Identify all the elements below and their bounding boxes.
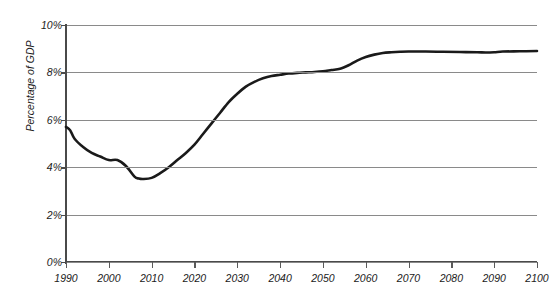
gridline-y-10%: [66, 25, 537, 26]
x-tick-mark: [323, 262, 324, 268]
x-tick-mark: [66, 262, 67, 268]
y-tick-mark: [61, 215, 67, 216]
x-tick-mark: [537, 262, 538, 268]
y-tick-label: 8%: [28, 67, 62, 78]
y-tick-mark: [61, 25, 67, 26]
x-tick-label: 2030: [214, 272, 260, 284]
x-tick-mark: [494, 262, 495, 268]
x-tick-mark: [409, 262, 410, 268]
x-tick-label: 2020: [171, 272, 217, 284]
y-tick-label: 2%: [28, 209, 62, 220]
y-tick-label: 10%: [28, 20, 62, 31]
chart-figure: Percentage of GDP 0%2%4%6%8%10% 19902000…: [0, 0, 557, 302]
x-tick-label: 1990: [43, 272, 89, 284]
y-tick-label-group: 0%2%4%6%8%10%: [18, 0, 62, 302]
x-tick-mark: [451, 262, 452, 268]
x-tick-label: 2060: [343, 272, 389, 284]
plot-area: [66, 25, 537, 262]
x-tick-label: 2050: [300, 272, 346, 284]
y-tick-label: 4%: [28, 162, 62, 173]
x-tick-label: 2040: [257, 272, 303, 284]
y-tick-mark: [61, 120, 67, 121]
gridline-y-6%: [66, 120, 537, 121]
x-tick-label: 2090: [471, 272, 517, 284]
chart-title-remnant: [0, 0, 557, 2]
data-series-line: [66, 25, 537, 262]
x-tick-mark: [237, 262, 238, 268]
gridline-y-4%: [66, 167, 537, 168]
y-tick-label: 0%: [28, 257, 62, 268]
x-tick-mark: [280, 262, 281, 268]
x-tick-label: 2010: [129, 272, 175, 284]
series-path-percentage-of-gdp: [66, 51, 537, 179]
y-tick-mark: [61, 72, 67, 73]
x-tick-mark: [109, 262, 110, 268]
gridline-y-2%: [66, 215, 537, 216]
x-tick-label: 2000: [86, 272, 132, 284]
y-tick-mark: [61, 167, 67, 168]
y-tick-label: 6%: [28, 115, 62, 126]
x-tick-mark: [194, 262, 195, 268]
x-tick-mark: [366, 262, 367, 268]
gridline-y-8%: [66, 72, 537, 73]
x-tick-label: 2100: [514, 272, 557, 284]
x-tick-mark: [152, 262, 153, 268]
x-tick-label: 2070: [386, 272, 432, 284]
gridline-y-0%: [66, 262, 537, 263]
x-tick-label: 2080: [428, 272, 474, 284]
